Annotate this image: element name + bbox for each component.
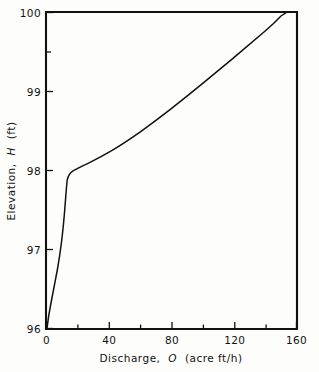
x-axis-title: Discharge, O (acre ft/h) — [100, 352, 243, 364]
y-tick-label-98: 98 — [27, 165, 41, 177]
y-tick-labels: 96 97 98 99 100 — [20, 7, 41, 335]
y-axis-title: Elevation, H (ft) — [5, 121, 17, 220]
x-axis-title-symbol: O — [168, 352, 177, 364]
y-tick-label-100: 100 — [20, 7, 41, 19]
y-tick-label-99: 99 — [27, 86, 41, 98]
svg-text:Elevation, H (: Elevation, H (ft) — [5, 121, 17, 220]
y-axis-title-units: (ft) — [5, 121, 17, 139]
x-tick-label-160: 160 — [286, 334, 307, 346]
figure-container: 96 97 98 99 100 0 40 80 120 160 Discharg… — [0, 0, 319, 372]
svg-text:Discharge, O (: Discharge, O (acre ft/h) — [100, 352, 243, 364]
plot-frame — [46, 12, 297, 329]
rating-curve — [47, 12, 287, 329]
y-tick-label-97: 97 — [27, 244, 41, 256]
stage-discharge-chart: 96 97 98 99 100 0 40 80 120 160 Discharg… — [0, 0, 319, 372]
x-tick-labels: 0 40 80 120 160 — [43, 334, 307, 346]
y-axis-title-symbol: H — [5, 147, 17, 155]
x-axis-title-units: (acre ft/h) — [185, 352, 243, 364]
x-axis-title-prefix: Discharge, — [100, 352, 161, 364]
y-tick-label-96: 96 — [27, 323, 41, 335]
x-tick-label-120: 120 — [224, 334, 245, 346]
x-tick-label-0: 0 — [43, 334, 50, 346]
x-tick-label-80: 80 — [165, 334, 179, 346]
x-tick-label-40: 40 — [102, 334, 116, 346]
y-axis-title-prefix: Elevation, — [5, 163, 17, 220]
